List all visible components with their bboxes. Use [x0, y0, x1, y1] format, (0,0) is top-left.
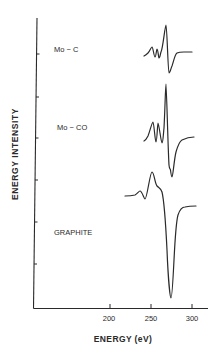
series-label-mo-c: Mo − C: [54, 45, 79, 54]
series-label-graphite: GRAPHITE: [54, 228, 92, 237]
curve-mo-c: [144, 25, 192, 73]
chart: 200 250 300 ENERGY (eV) ENERGY INTENSITY…: [0, 0, 219, 357]
y-axis-title: ENERGY INTENSITY: [10, 108, 20, 200]
y-axis: [34, 18, 38, 309]
axes: [34, 18, 209, 309]
curve-graphite: [125, 172, 196, 298]
curve-mo-co: [144, 84, 194, 177]
x-tick-label-200: 200: [103, 314, 116, 323]
x-ticks: [110, 304, 192, 309]
x-tick-label-300: 300: [186, 314, 199, 323]
series-label-mo-co: Mo − CO: [57, 123, 87, 132]
x-axis-title: ENERGY (eV): [94, 334, 153, 344]
x-tick-label-250: 250: [145, 314, 158, 323]
